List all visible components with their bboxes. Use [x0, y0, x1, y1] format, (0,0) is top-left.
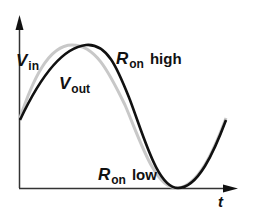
waveform-diagram — [0, 0, 254, 217]
ron-high-label: Ronhigh — [116, 50, 182, 67]
vout-label: Vout — [59, 75, 90, 92]
x-axis-label: t — [218, 194, 223, 209]
vin-label: Vin — [16, 52, 39, 69]
x-axis-arrow-icon — [223, 185, 238, 193]
y-axis-arrow-icon — [16, 15, 24, 30]
ron-low-label: Ronlow — [98, 166, 157, 183]
